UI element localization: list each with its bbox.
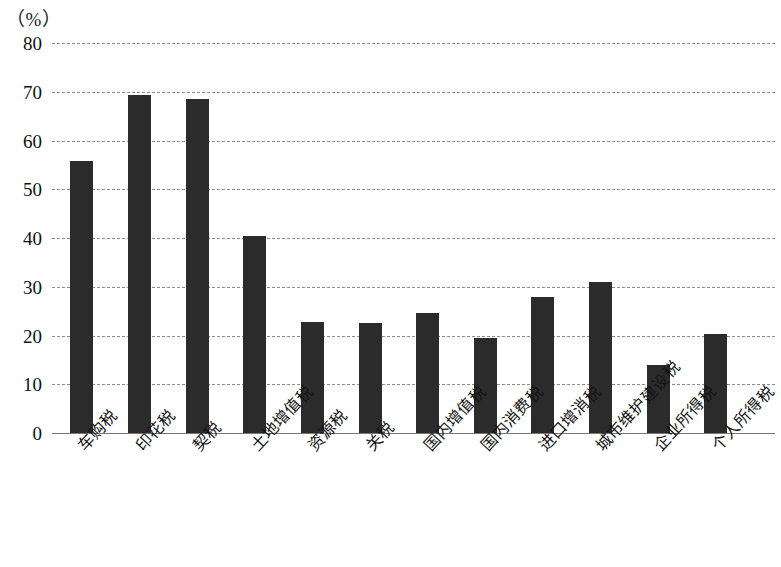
bar: [359, 323, 382, 433]
y-axis-tick-label: 50: [0, 180, 42, 199]
y-axis-tick-label: 10: [0, 375, 42, 394]
x-axis-tick-labels: 车购税印花税契税土地增值税资源税关税国内增值税国内消费税进口增消税城市维护建设税…: [52, 433, 775, 567]
bar: [186, 99, 209, 433]
y-axis-tick-label: 20: [0, 326, 42, 345]
bar: [243, 236, 266, 433]
y-axis-tick-label: 0: [0, 424, 42, 443]
y-axis-tick-label: 70: [0, 82, 42, 101]
bar: [589, 282, 612, 433]
bar: [531, 297, 554, 433]
bar-chart: （%） 80706050403020100 车购税印花税契税土地增值税资源税关税…: [0, 0, 781, 567]
bar: [70, 161, 93, 433]
bar: [128, 95, 151, 433]
y-axis-tick-label: 80: [0, 34, 42, 53]
bar: [301, 322, 324, 433]
y-axis-tick-label: 40: [0, 229, 42, 248]
bar: [416, 313, 439, 433]
y-axis-tick-label: 30: [0, 277, 42, 296]
y-axis-unit-label: （%）: [6, 4, 61, 31]
y-axis-tick-label: 60: [0, 131, 42, 150]
